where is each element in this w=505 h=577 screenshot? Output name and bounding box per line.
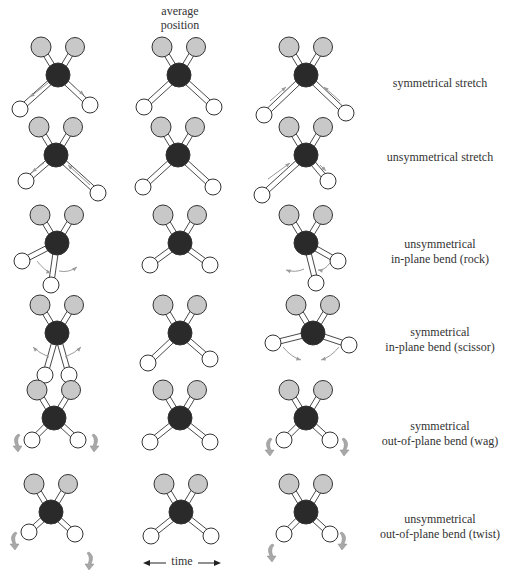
label-line-1: unsymmetrical xyxy=(370,237,505,252)
molecule-unsymmetrical-stretch-displaced-state-1 xyxy=(18,117,106,201)
white-atom-right xyxy=(43,277,59,293)
white-atom-left xyxy=(135,179,151,195)
rotation-arrow-icon xyxy=(10,532,19,550)
molecule-symmetrical-stretch-displaced-state-2 xyxy=(256,37,354,123)
white-atom-left xyxy=(14,253,30,269)
white-atom-left xyxy=(256,107,272,123)
white-atom-right xyxy=(338,105,354,121)
arrowhead-icon xyxy=(286,269,291,273)
gray-atom-left xyxy=(31,37,51,57)
label-line-1: unsymmetrical xyxy=(370,512,505,527)
white-atom-left xyxy=(142,257,158,273)
central-atom xyxy=(39,500,63,524)
rotation-arrow-icon xyxy=(90,434,99,452)
label-line-2: in-plane bend (scissor) xyxy=(370,340,505,355)
gray-atom-right xyxy=(59,475,78,494)
gray-atom-left xyxy=(27,380,47,400)
white-atom-right xyxy=(67,526,83,542)
label-line-1: symmetrical stretch xyxy=(370,76,505,91)
label-scissor: symmetrical in-plane bend (scissor) xyxy=(370,325,505,355)
label-wag: symmetrical out-of-plane bend (wag) xyxy=(370,419,505,449)
gray-atom-right xyxy=(65,296,84,315)
central-atom xyxy=(166,143,190,167)
white-atom-left xyxy=(142,434,158,450)
rotation-arrow-icon xyxy=(265,438,274,456)
white-atom-right xyxy=(330,253,346,269)
label-twist: unsymmetrical out-of-plane bend (twist) xyxy=(370,512,505,542)
gray-atom-right xyxy=(314,118,333,137)
central-atom xyxy=(42,406,66,430)
white-atom-right xyxy=(205,179,221,195)
molecule-unsymmetrical-out-of-plane-bend-twist-displaced-state-1 xyxy=(10,474,94,570)
central-atom xyxy=(294,143,318,167)
rotation-arrow-icon xyxy=(338,532,347,550)
gray-atom-left xyxy=(279,474,299,494)
white-atom-right xyxy=(203,528,219,544)
gray-atom-left xyxy=(30,205,50,225)
label-line-1: unsymmetrical stretch xyxy=(370,150,505,165)
gray-atom-right xyxy=(188,206,207,225)
white-atom-left xyxy=(265,335,281,351)
white-atom-right xyxy=(82,97,98,113)
label-line-2: in-plane bend (rock) xyxy=(370,252,505,267)
central-atom xyxy=(168,406,192,430)
rotation-arrow-icon xyxy=(85,552,94,570)
header-line-2: position xyxy=(140,18,220,32)
white-atom-right xyxy=(322,432,338,448)
white-atom-left xyxy=(24,432,40,448)
header-line-1: average xyxy=(140,4,220,18)
gray-atom-left xyxy=(153,380,173,400)
white-atom-right xyxy=(90,185,106,201)
molecule-unsymmetrical-out-of-plane-bend-twist-displaced-state-2 xyxy=(267,474,347,562)
white-atom-left xyxy=(18,173,34,189)
central-atom xyxy=(294,500,318,524)
central-atom xyxy=(45,321,69,345)
gray-atom-right xyxy=(65,206,84,225)
white-atom-right xyxy=(202,257,218,273)
gray-atom-left xyxy=(153,205,173,225)
arrowhead-icon xyxy=(321,357,326,361)
central-atom xyxy=(301,321,325,345)
white-atom-right xyxy=(202,434,218,450)
central-atom xyxy=(294,231,318,255)
molecule-symmetrical-in-plane-bend-scissor-displaced-state-2 xyxy=(265,295,357,361)
label-line-1: symmetrical xyxy=(370,419,505,434)
gray-atom-left xyxy=(279,380,299,400)
rotation-arrow-icon xyxy=(340,438,349,456)
gray-atom-left xyxy=(152,37,172,57)
molecule-symmetrical-stretch-average-position xyxy=(136,37,222,115)
white-atom-right xyxy=(202,351,218,367)
molecule-unsymmetrical-in-plane-bend-rock-displaced-state-2 xyxy=(279,205,346,291)
white-atom-left xyxy=(12,101,28,117)
white-atom-right xyxy=(206,99,222,115)
gray-atom-left xyxy=(279,37,299,57)
gray-atom-right xyxy=(186,118,205,137)
rotation-arrow-icon xyxy=(267,544,276,562)
label-line-1: symmetrical xyxy=(370,325,505,340)
molecule-symmetrical-stretch-displaced-state-1 xyxy=(12,37,98,117)
central-atom xyxy=(168,231,192,255)
central-atom xyxy=(167,63,191,87)
white-atom-right xyxy=(341,337,357,353)
label-line-2: out-of-plane bend (twist) xyxy=(370,527,505,542)
molecule-symmetrical-in-plane-bend-scissor-average-position xyxy=(140,295,218,371)
molecule-symmetrical-out-of-plane-bend-wag-displaced-state-1 xyxy=(13,380,99,452)
gray-atom-right xyxy=(314,381,333,400)
gray-atom-right xyxy=(189,475,208,494)
gray-atom-right xyxy=(62,381,81,400)
gray-atom-left xyxy=(24,474,44,494)
gray-atom-right xyxy=(314,38,333,57)
white-atom-left xyxy=(308,275,324,291)
central-atom xyxy=(168,321,192,345)
gray-atom-right xyxy=(64,118,83,137)
molecule-symmetrical-out-of-plane-bend-wag-average-position xyxy=(142,380,218,450)
gray-atom-left xyxy=(153,295,173,315)
arrowhead-icon xyxy=(72,267,77,271)
molecule-symmetrical-in-plane-bend-scissor-displaced-state-1 xyxy=(30,295,84,383)
central-atom xyxy=(44,143,68,167)
gray-atom-left xyxy=(279,117,299,137)
gray-atom-right xyxy=(66,38,85,57)
central-atom xyxy=(45,231,69,255)
central-atom xyxy=(46,63,70,87)
white-atom-left xyxy=(276,526,292,542)
